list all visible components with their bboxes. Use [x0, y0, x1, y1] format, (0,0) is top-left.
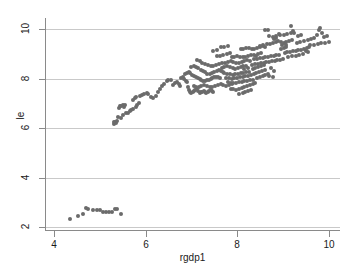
data-point — [299, 33, 303, 37]
data-point — [81, 212, 85, 216]
data-point — [123, 103, 127, 107]
data-point — [249, 88, 253, 92]
data-point — [86, 207, 90, 211]
data-point — [178, 84, 182, 88]
data-point — [272, 69, 276, 73]
data-point — [115, 207, 119, 211]
data-point — [256, 52, 260, 56]
plot-area — [45, 18, 340, 231]
data-point — [272, 37, 276, 41]
data-point — [327, 40, 331, 44]
y-axis-tick-label: 10 — [20, 16, 31, 42]
y-axis-tick-label: 8 — [20, 66, 31, 92]
data-point — [68, 217, 72, 221]
y-axis-tick-label: 4 — [20, 165, 31, 191]
x-axis-tick-label: 6 — [134, 239, 158, 250]
data-point — [248, 59, 252, 63]
x-axis-tick — [54, 231, 55, 237]
data-point — [253, 81, 257, 85]
data-point — [271, 75, 275, 79]
data-point — [277, 32, 281, 36]
x-axis-tick — [237, 231, 238, 237]
data-point — [289, 24, 293, 28]
x-axis-title: rgdp1 — [45, 252, 340, 263]
data-point — [306, 50, 310, 54]
data-point — [292, 31, 296, 35]
data-point — [226, 44, 230, 48]
data-point — [76, 214, 80, 218]
data-point — [281, 57, 285, 61]
data-point — [277, 53, 281, 57]
x-axis-tick-label: 8 — [225, 239, 249, 250]
x-axis-tick — [146, 231, 147, 237]
data-point — [315, 33, 319, 37]
data-point — [112, 120, 116, 124]
data-point — [169, 78, 173, 82]
data-point — [318, 26, 322, 30]
y-axis-tick-label: 2 — [20, 214, 31, 240]
data-point — [185, 80, 189, 84]
data-point — [290, 38, 294, 42]
x-axis-tick-label: 4 — [42, 239, 66, 250]
data-point — [266, 28, 270, 32]
data-point — [137, 101, 141, 105]
data-point — [154, 94, 158, 98]
data-point — [284, 45, 288, 49]
data-point — [218, 76, 222, 80]
data-point — [119, 212, 123, 216]
data-point — [325, 34, 329, 38]
x-axis-tick — [329, 231, 330, 237]
data-point — [258, 44, 262, 48]
data-point — [211, 90, 215, 94]
data-point — [215, 48, 219, 52]
data-point — [320, 31, 324, 35]
data-point — [263, 68, 267, 72]
y-axis-title: le — [15, 102, 26, 130]
scatter-plot-figure: 108642 le 46810 rgdp1 — [0, 0, 360, 272]
x-axis-tick-label: 10 — [317, 239, 341, 250]
